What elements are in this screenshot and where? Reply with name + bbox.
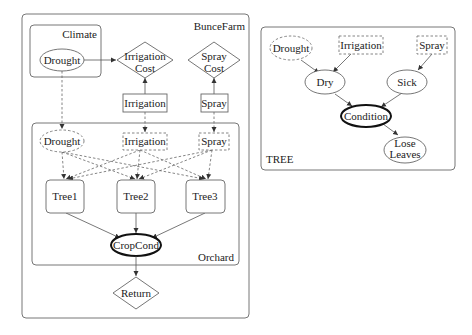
edge-tree1-cropcond	[66, 213, 120, 238]
climate-title: Climate	[62, 28, 97, 40]
spray-cost-node[interactable]: Spray Cost	[188, 42, 240, 78]
tree-drought-node[interactable]: Drought	[270, 36, 312, 60]
climate-drought-node[interactable]: Drought	[40, 49, 84, 71]
svg-text:Irrigation: Irrigation	[124, 50, 166, 62]
svg-text:Return: Return	[121, 287, 151, 299]
svg-text:Spray: Spray	[201, 97, 227, 109]
svg-text:Spray: Spray	[201, 50, 227, 62]
irrigation-decision-node[interactable]: Irrigation	[123, 94, 167, 112]
tree-dry-node[interactable]: Dry	[305, 70, 345, 94]
tree2-node[interactable]: Tree2	[117, 180, 155, 213]
edge-tree-spray-sick	[418, 54, 432, 70]
orchard-irrigation-node[interactable]: Irrigation	[123, 133, 167, 150]
svg-text:CropCond: CropCond	[113, 239, 159, 251]
svg-text:Irrigation: Irrigation	[340, 39, 382, 51]
tree-class-title: TREE	[266, 153, 294, 165]
svg-text:Tree2: Tree2	[123, 190, 148, 202]
spray-decision-node[interactable]: Spray	[201, 94, 228, 112]
svg-text:Leaves: Leaves	[389, 148, 420, 160]
edge-tree-irrigation-dry	[333, 54, 351, 72]
tree-irrigation-node[interactable]: Irrigation	[339, 36, 383, 54]
svg-text:Irrigation: Irrigation	[124, 97, 166, 109]
tree-condition-node[interactable]: Condition	[341, 105, 391, 127]
orchard-drought-node[interactable]: Drought	[40, 130, 84, 152]
svg-text:Sick: Sick	[397, 76, 417, 88]
svg-text:Tree3: Tree3	[192, 190, 218, 202]
svg-text:Irrigation: Irrigation	[124, 135, 166, 147]
svg-text:Cost: Cost	[135, 62, 155, 74]
orchard-spray-node[interactable]: Spray	[199, 133, 229, 150]
svg-text:Tree1: Tree1	[52, 190, 77, 202]
tree1-node[interactable]: Tree1	[46, 180, 84, 213]
edge-tree-dry-condition	[335, 94, 352, 106]
orchard-title: Orchard	[198, 251, 235, 263]
svg-text:Condition: Condition	[344, 110, 389, 122]
orchard-parent-edges	[62, 150, 212, 179]
cropcond-node[interactable]: CropCond	[111, 234, 161, 256]
diagram-canvas: BunceFarm Climate Drought Irrigation Cos…	[0, 0, 472, 335]
svg-text:Spray: Spray	[419, 39, 445, 51]
svg-text:Spray: Spray	[201, 135, 227, 147]
tree-lose-leaves-node[interactable]: Lose Leaves	[384, 137, 426, 163]
tree3-node[interactable]: Tree3	[186, 180, 225, 213]
svg-text:Drought: Drought	[273, 42, 310, 54]
edge-tree3-cropcond	[152, 213, 205, 238]
irrigation-cost-node[interactable]: Irrigation Cost	[117, 42, 173, 78]
tree-spray-node[interactable]: Spray	[417, 36, 447, 54]
tree-sick-node[interactable]: Sick	[387, 70, 427, 94]
buncefarm-title: BunceFarm	[194, 20, 246, 32]
edge-tree-sick-condition	[381, 93, 402, 107]
svg-text:Cost: Cost	[204, 62, 224, 74]
svg-text:Drought: Drought	[44, 54, 81, 66]
svg-text:Drought: Drought	[44, 135, 81, 147]
return-node[interactable]: Return	[113, 277, 159, 309]
svg-text:Dry: Dry	[316, 76, 334, 88]
